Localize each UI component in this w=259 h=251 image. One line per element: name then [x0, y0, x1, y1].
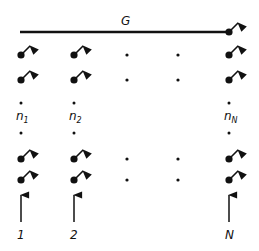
ellipsis-dot-icon: [73, 102, 76, 105]
ellipsis-dot-icon: [73, 132, 76, 135]
counter-subscript: 1: [24, 116, 29, 125]
spin-1-2: [17, 71, 30, 84]
spin-arrow-icon: [229, 46, 238, 55]
ellipsis-dot-icon: [125, 178, 128, 181]
spin-arrow-icon: [229, 171, 238, 180]
spin-1-4: [17, 171, 30, 184]
ellipsis-dot-icon: [228, 102, 231, 105]
spin-arrow-icon: [74, 71, 83, 80]
spin-arrow-icon: [229, 23, 238, 32]
spin-1-3: [17, 150, 30, 163]
spin-N-4: [225, 171, 238, 184]
spin-N-1: [225, 46, 238, 59]
spin-arrow-icon: [21, 171, 30, 180]
spin-arrow-icon: [21, 150, 30, 159]
counter-label-1: n1: [16, 109, 29, 125]
spin-arrow-icon: [229, 71, 238, 80]
bus-end-spin: [225, 23, 238, 36]
ellipsis-dot-icon: [125, 53, 128, 56]
counter-label-2: n2: [69, 109, 82, 125]
counter-subscript: 2: [77, 116, 82, 125]
spin-2-1: [70, 46, 83, 59]
counter-label-N: nN: [224, 109, 238, 125]
ellipsis-dot-icon: [228, 132, 231, 135]
ellipsis-dot-icon: [20, 132, 23, 135]
spin-2-4: [70, 171, 83, 184]
ellipsis-dot-icon: [176, 78, 179, 81]
spin-2-3: [70, 150, 83, 163]
column-label-N: N: [225, 228, 234, 242]
spin-arrow-icon: [21, 46, 30, 55]
spin-arrow-icon: [74, 46, 83, 55]
column-label-1: 1: [17, 228, 25, 242]
ellipsis-dot-icon: [176, 157, 179, 160]
column-2: n22: [69, 46, 83, 242]
ellipsis-dot-icon: [176, 53, 179, 56]
spin-1-1: [17, 46, 30, 59]
spin-arrow-icon: [74, 150, 83, 159]
spin-arrow-icon: [21, 71, 30, 80]
spin-lattice-diagram: G n11n22nNN: [0, 0, 259, 251]
ellipsis-dot-icon: [125, 157, 128, 160]
spin-2-2: [70, 71, 83, 84]
ellipsis-dot-icon: [176, 178, 179, 181]
column-ellipsis-a: [125, 53, 128, 181]
bus-label: G: [121, 14, 130, 28]
ellipsis-dot-icon: [20, 102, 23, 105]
ellipsis-dot-icon: [125, 78, 128, 81]
spin-N-2: [225, 71, 238, 84]
column-N: nNN: [224, 46, 238, 242]
column-ellipsis-b: [176, 53, 179, 181]
spin-N-3: [225, 150, 238, 163]
column-1: n11: [16, 46, 30, 242]
spin-arrow-icon: [74, 171, 83, 180]
column-label-2: 2: [70, 228, 78, 242]
spin-arrow-icon: [229, 150, 238, 159]
counter-subscript: N: [232, 116, 238, 125]
